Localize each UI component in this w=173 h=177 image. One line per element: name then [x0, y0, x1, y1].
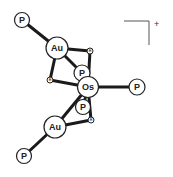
atom-h2: H: [47, 77, 53, 83]
atom-au2: Au: [44, 116, 66, 138]
atom-h3: H: [88, 117, 94, 123]
charge-bracket: +: [124, 19, 159, 45]
atom-label: P: [80, 102, 86, 112]
molecule-diagram: PAuHPHOsPPHAuP +: [0, 0, 173, 177]
atom-p5: P: [17, 149, 32, 164]
atom-h1: H: [87, 48, 93, 54]
atom-label: P: [79, 68, 85, 78]
atom-p1: P: [15, 13, 30, 28]
atom-label: Au: [49, 122, 61, 132]
atom-label: P: [134, 82, 140, 92]
atom-label: Au: [51, 43, 63, 53]
atom-os: Os: [78, 77, 99, 98]
charge-label: +: [154, 19, 159, 29]
atom-p4: P: [76, 100, 91, 115]
atom-label: P: [19, 15, 25, 25]
atom-au1: Au: [46, 37, 68, 59]
atom-p3: P: [129, 79, 145, 95]
atom-label: P: [21, 151, 27, 161]
atom-label: Os: [82, 82, 94, 92]
